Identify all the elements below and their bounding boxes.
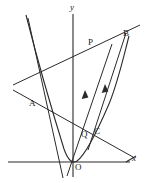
y-axis-label: y xyxy=(70,3,74,12)
line-AB xyxy=(13,25,140,85)
line-OP xyxy=(67,44,112,176)
x-axis-label: x xyxy=(132,154,136,163)
parallel-marks-group xyxy=(82,84,109,99)
point-label-C: C xyxy=(94,127,100,136)
point-label-O: O xyxy=(75,163,82,172)
parallel-arrow-2-icon xyxy=(102,84,109,93)
point-label-Q: Q xyxy=(81,130,88,139)
parallel-arrow-1-icon xyxy=(82,90,89,99)
point-label-B: B xyxy=(123,29,129,38)
point-label-A: A xyxy=(29,99,36,108)
axes-group xyxy=(8,14,136,177)
geometry-figure: y x A P B Q C O xyxy=(0,0,147,183)
point-label-P: P xyxy=(88,38,93,47)
